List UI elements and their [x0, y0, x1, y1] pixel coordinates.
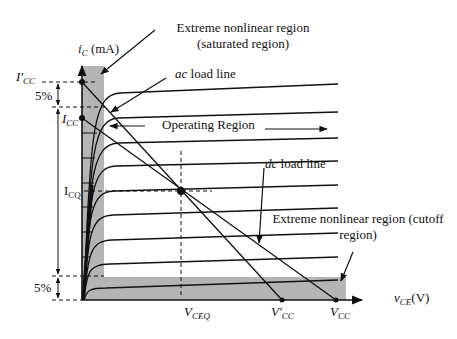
x-axis-sub: CE	[400, 297, 412, 307]
icq-sub: CQ	[68, 190, 81, 200]
y-axis-unit: (mA)	[91, 41, 119, 56]
x-axis-unit: (V)	[411, 290, 429, 305]
ac-italic: ac	[175, 66, 187, 81]
x-axis-label: vCE(V)	[394, 291, 429, 304]
y-axis-sub: C	[82, 48, 88, 58]
vcc-sub: CC	[338, 311, 350, 321]
x-axis-var: v	[394, 290, 400, 305]
saturated-line1: Extreme nonlinear region	[168, 20, 318, 36]
icc-label: ICC	[62, 112, 78, 125]
icc-prime-sub: CC	[23, 76, 35, 86]
ac-rest: load line	[187, 66, 235, 81]
y-axis-label: iC (mA)	[78, 42, 119, 55]
vcc-prime-main: V'	[271, 304, 282, 319]
vcc-point	[334, 298, 339, 303]
icq-label: ICQ	[64, 184, 81, 197]
icc-prime-label: I'CC	[16, 70, 35, 83]
dc-rest: load line	[277, 156, 325, 171]
saturated-region-annotation: Extreme nonlinear region (saturated regi…	[168, 20, 318, 53]
bottom-percent-label: 5%	[34, 281, 51, 294]
dc-italic: dc	[265, 156, 277, 171]
vceq-label: VCEQ	[184, 305, 210, 318]
vceq-main: V	[184, 304, 192, 319]
cutoff-line1: Extreme nonlinear region (cutoff	[268, 211, 448, 227]
icc-point	[79, 115, 85, 121]
ac-load-line-label: ac load line	[175, 67, 236, 80]
saturated-line2: (saturated region)	[168, 36, 318, 52]
vcc-prime-label: V'CC	[271, 305, 294, 318]
icc-sub: CC	[66, 118, 78, 128]
icc-prime-point	[79, 79, 85, 85]
cutoff-region-annotation: Extreme nonlinear region (cutoff region)	[268, 211, 448, 244]
vceq-sub: CEQ	[192, 311, 210, 321]
vcc-prime-point	[280, 298, 285, 303]
dc-load-line-label: dc load line	[265, 157, 326, 170]
vcc-label: VCC	[330, 305, 350, 318]
vcc-main: V	[330, 304, 338, 319]
q-point	[177, 187, 185, 195]
top-percent-label: 5%	[35, 89, 52, 102]
cutoff-line2: region)	[268, 227, 448, 243]
vcc-prime-sub: CC	[282, 311, 294, 321]
operating-region-label: Operating Region	[162, 118, 255, 131]
